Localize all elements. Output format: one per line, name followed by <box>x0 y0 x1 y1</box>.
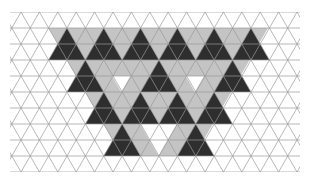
triangle-grid-diagram <box>0 0 310 178</box>
